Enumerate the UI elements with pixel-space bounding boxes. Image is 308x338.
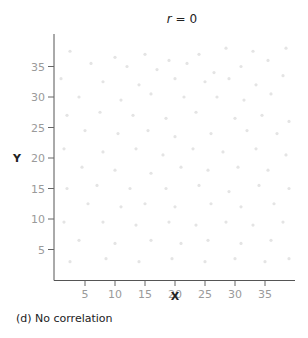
data-point [239, 65, 242, 68]
data-point [77, 95, 80, 98]
x-tick-label: 15 [138, 288, 152, 301]
data-point [167, 220, 170, 223]
data-point [86, 202, 89, 205]
data-point [134, 224, 137, 227]
data-point [263, 260, 266, 263]
data-points [59, 47, 290, 264]
data-point [167, 59, 170, 62]
data-point [62, 220, 65, 223]
data-point [281, 74, 284, 77]
x-tick-label: 30 [228, 288, 242, 301]
data-point [254, 83, 257, 86]
data-point [65, 114, 68, 117]
data-point [137, 260, 140, 263]
data-point [146, 129, 149, 132]
data-point [209, 132, 212, 135]
data-point [155, 68, 158, 71]
data-point [179, 242, 182, 245]
data-point [272, 202, 275, 205]
data-point [209, 202, 212, 205]
data-point [113, 242, 116, 245]
x-axis-label: X [171, 290, 180, 303]
y-tick-label: 25 [31, 122, 45, 135]
data-point [203, 260, 206, 263]
data-point [281, 220, 284, 223]
data-point [116, 132, 119, 135]
y-tick-label: 5 [38, 244, 45, 257]
x-tick-label: 10 [108, 288, 122, 301]
data-point [203, 80, 206, 83]
data-point [119, 205, 122, 208]
data-point [287, 187, 290, 190]
y-tick-label: 15 [31, 183, 45, 196]
y-tick-label: 20 [31, 152, 45, 165]
data-point [242, 98, 245, 101]
data-point [194, 111, 197, 114]
data-point [113, 56, 116, 59]
data-point [149, 92, 152, 95]
y-tick-label: 10 [31, 213, 45, 226]
data-point [62, 147, 65, 150]
data-point [143, 53, 146, 56]
data-point [137, 83, 140, 86]
data-point [245, 129, 248, 132]
data-point [185, 62, 188, 65]
data-point [83, 129, 86, 132]
data-point [134, 147, 137, 150]
data-point [251, 50, 254, 53]
data-point [221, 150, 224, 153]
data-point [149, 239, 152, 242]
data-point [287, 120, 290, 123]
data-point [59, 77, 62, 80]
figure-caption: (d) No correlation [16, 312, 113, 325]
data-point [194, 224, 197, 227]
data-point [215, 95, 218, 98]
data-point [179, 166, 182, 169]
data-point [239, 242, 242, 245]
data-point [80, 166, 83, 169]
data-point [173, 77, 176, 80]
y-tick-label: 30 [31, 91, 45, 104]
data-point [227, 190, 230, 193]
data-point [206, 169, 209, 172]
data-point [101, 80, 104, 83]
data-point [269, 239, 272, 242]
data-point [266, 59, 269, 62]
data-point [131, 114, 134, 117]
data-point [233, 117, 236, 120]
data-point [77, 239, 80, 242]
data-point [173, 205, 176, 208]
data-point [224, 220, 227, 223]
data-point [101, 150, 104, 153]
data-point [239, 205, 242, 208]
data-point [269, 92, 272, 95]
data-point [170, 257, 173, 260]
data-point [191, 147, 194, 150]
data-point [236, 166, 239, 169]
data-point [254, 147, 257, 150]
data-point [119, 98, 122, 101]
data-point [101, 220, 104, 223]
data-point [164, 117, 167, 120]
data-point [251, 224, 254, 227]
data-point [224, 47, 227, 50]
scatter-plot: 5101520253035 5101520253035 X Y [0, 0, 308, 338]
data-point [128, 187, 131, 190]
data-point [161, 153, 164, 156]
data-point [206, 239, 209, 242]
data-point [197, 184, 200, 187]
data-point [164, 187, 167, 190]
data-point [233, 257, 236, 260]
data-point [113, 169, 116, 172]
data-point [149, 172, 152, 175]
data-point [98, 111, 101, 114]
x-tick-label: 5 [82, 288, 89, 301]
data-point [173, 135, 176, 138]
data-point [287, 257, 290, 260]
data-point [275, 132, 278, 135]
data-point [125, 65, 128, 68]
data-point [284, 47, 287, 50]
y-axis-ticks: 5101520253035 [31, 61, 54, 257]
data-point [89, 62, 92, 65]
y-axis-label: Y [12, 152, 22, 165]
